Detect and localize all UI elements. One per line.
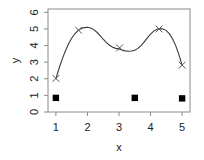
square-marker xyxy=(179,95,185,101)
x-tick-label: 5 xyxy=(179,121,185,133)
x-tick-label: 1 xyxy=(53,121,59,133)
y-axis-title: y xyxy=(9,57,21,63)
x-tick-label: 3 xyxy=(116,121,122,133)
chart-figure: 123450123456xy xyxy=(0,0,204,160)
cross-marker xyxy=(116,44,123,51)
y-tick-label: 2 xyxy=(28,76,40,82)
y-tick-label: 4 xyxy=(28,42,40,48)
chart-plot-area: 123450123456xy xyxy=(0,0,204,160)
cross-marker xyxy=(75,27,82,34)
y-tick-label: 5 xyxy=(28,26,40,32)
y-tick-label: 1 xyxy=(28,92,40,98)
data-curve-fitted-curve xyxy=(56,27,182,78)
square-marker xyxy=(53,95,59,101)
y-tick-label: 6 xyxy=(28,9,40,15)
plot-frame xyxy=(48,9,190,112)
y-tick-label: 0 xyxy=(28,109,40,115)
cross-marker xyxy=(179,62,186,69)
cross-marker xyxy=(52,75,59,82)
square-marker xyxy=(132,95,138,101)
y-tick-label: 3 xyxy=(28,59,40,65)
marker-group-observed-points xyxy=(52,26,185,82)
x-tick-label: 4 xyxy=(147,121,153,133)
x-axis-title: x xyxy=(116,141,122,153)
x-tick-label: 2 xyxy=(84,121,90,133)
marker-group-knot-points xyxy=(53,95,186,102)
